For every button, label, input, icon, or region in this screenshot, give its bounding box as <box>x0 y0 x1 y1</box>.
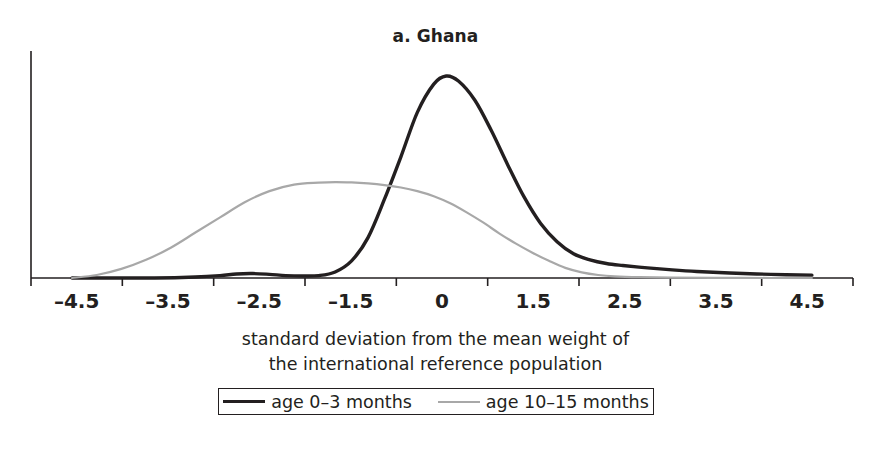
x-axis-tick-label: –3.5 <box>145 289 190 313</box>
x-axis-tick-label: 3.5 <box>698 289 733 313</box>
x-axis-tick-label: 1.5 <box>516 289 551 313</box>
legend-item-age-10-15-months: age 10–15 months <box>438 392 649 412</box>
x-axis-tick-label: –4.5 <box>54 289 99 313</box>
chart-legend: age 0–3 months age 10–15 months <box>218 388 654 415</box>
x-axis-label-line-2: the international reference population <box>0 352 871 377</box>
x-axis-label: standard deviation from the mean weight … <box>0 327 871 377</box>
legend-label-age-0-3-months: age 0–3 months <box>271 392 412 412</box>
x-axis-tick-label: –1.5 <box>328 289 373 313</box>
x-axis-tick-label: –2.5 <box>237 289 282 313</box>
legend-item-age-0-3-months: age 0–3 months <box>223 392 412 412</box>
chart-series-group <box>72 76 812 278</box>
chart-figure: a. Ghana –4.5–3.5–2.5–1.501.52.53.54.5 s… <box>0 0 871 455</box>
series-line-age-10-15-months <box>72 182 812 278</box>
chart-plot-area <box>0 0 871 455</box>
x-axis-tick-label: 4.5 <box>790 289 825 313</box>
legend-line-gray-icon <box>438 401 480 403</box>
series-line-age-0-3-months <box>72 76 812 278</box>
legend-label-age-10-15-months: age 10–15 months <box>486 392 649 412</box>
x-axis-tick-label: 2.5 <box>607 289 642 313</box>
x-axis-tick-label: 0 <box>435 289 449 313</box>
x-axis-label-line-1: standard deviation from the mean weight … <box>0 327 871 352</box>
legend-line-black-icon <box>223 400 265 403</box>
chart-axes <box>31 51 853 286</box>
